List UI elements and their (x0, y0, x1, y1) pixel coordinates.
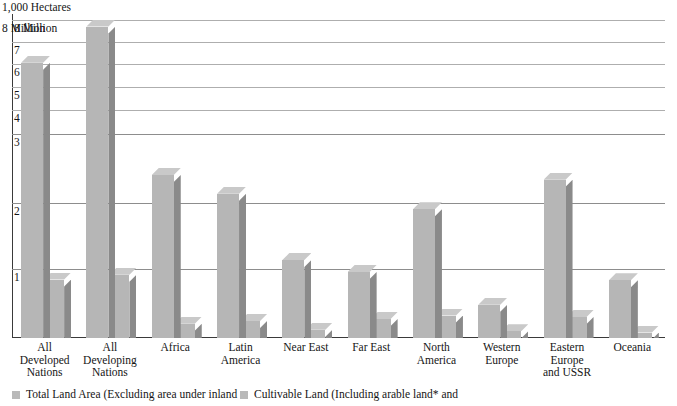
bar-side-face (260, 321, 267, 338)
bar-total-land-area (609, 280, 631, 338)
chart-root: 8 Million7654321 1,000 Hectares AllDevel… (0, 0, 677, 406)
bar-total-land-area (348, 272, 370, 338)
x-axis-label-line: Latin (208, 341, 273, 354)
legend-swatch (240, 391, 248, 399)
plot-area: 8 Million7654321 (12, 14, 665, 338)
bar-group (413, 14, 464, 338)
bar-total-land-area (544, 180, 566, 338)
bar-side-face (500, 305, 507, 338)
bar-total-land-area (282, 260, 304, 338)
chart-legend: Total Land Area (Excluding area under in… (12, 388, 665, 404)
bar-side-face (325, 330, 332, 338)
bar-front-face (413, 209, 435, 338)
bar-front-face (609, 280, 631, 338)
bar-group (217, 14, 268, 338)
bar-front-face (478, 305, 500, 338)
bar-side-face (587, 317, 594, 338)
bar-top-face (282, 253, 311, 260)
bar-side-face (129, 275, 136, 338)
x-axis-label-line: Europe (469, 354, 534, 367)
x-axis-label-7: WesternEurope (469, 341, 534, 366)
x-axis-label-2: Africa (143, 341, 208, 354)
bar-top-face (609, 273, 638, 280)
bar-total-land-area (21, 63, 43, 338)
x-axis-label-line: Europe (534, 354, 599, 367)
bar-series-container (12, 14, 665, 338)
bar-side-face (435, 209, 442, 338)
bar-front-face (282, 260, 304, 338)
x-axis-label-line: Nations (12, 366, 77, 379)
x-axis-label-line: North (404, 341, 469, 354)
bar-side-face (304, 260, 311, 338)
bar-front-face (544, 180, 566, 338)
bar-side-face (64, 280, 71, 338)
legend-label: Total Land Area (Excluding area under in… (26, 388, 237, 401)
bar-group (478, 14, 529, 338)
x-axis-label-line: Africa (143, 341, 208, 354)
x-axis-label-line: Oceania (600, 341, 665, 354)
bar-side-face (195, 324, 202, 338)
bar-side-face (108, 27, 115, 339)
bar-side-face (391, 319, 398, 338)
bar-side-face (370, 272, 377, 338)
x-axis-label-0: AllDevelopedNations (12, 341, 77, 379)
x-axis-label-5: Far East (339, 341, 404, 354)
bar-group (86, 14, 137, 338)
bar-front-face (348, 272, 370, 338)
bar-top-face (21, 56, 50, 63)
unit-label-million: 8 Million (2, 23, 45, 35)
bar-front-face (217, 194, 239, 338)
bar-total-land-area (413, 209, 435, 338)
bar-side-face (239, 194, 246, 338)
x-axis-label-line: America (208, 354, 273, 367)
unit-label-hectares: 1,000 Hectares (2, 2, 71, 14)
bar-group (282, 14, 333, 338)
x-axis-label-line: Developing (77, 354, 142, 367)
x-axis-label-line: Developed (12, 354, 77, 367)
bar-front-face (152, 175, 174, 338)
bar-front-face (86, 27, 108, 339)
x-axis-label-line: All (12, 341, 77, 354)
bar-top-face (413, 202, 442, 209)
x-axis-label-line: America (404, 354, 469, 367)
bar-side-face (631, 280, 638, 338)
bar-front-face (21, 63, 43, 338)
bar-total-land-area (478, 305, 500, 338)
x-axis-label-1: AllDevelopingNations (77, 341, 142, 379)
bar-top-face (478, 298, 507, 305)
bar-top-face (86, 20, 115, 27)
x-axis-label-line: Far East (339, 341, 404, 354)
x-axis-label-line: Near East (273, 341, 338, 354)
x-axis-label-6: NorthAmerica (404, 341, 469, 366)
x-axis-label-3: LatinAmerica (208, 341, 273, 366)
bar-side-face (456, 316, 463, 338)
bar-side-face (521, 331, 528, 338)
bar-total-land-area (86, 27, 108, 339)
bar-group (152, 14, 203, 338)
legend-item-1: Cultivable Land (Including arable land* … (240, 388, 458, 401)
x-axis-labels: AllDevelopedNationsAllDevelopingNationsA… (12, 341, 665, 387)
x-axis-label-line: Eastern (534, 341, 599, 354)
legend-swatch (12, 391, 20, 399)
bar-side-face (43, 63, 50, 338)
bar-top-face (348, 265, 377, 272)
bar-group (609, 14, 660, 338)
x-axis-label-line: Nations (77, 366, 142, 379)
bar-side-face (652, 333, 659, 338)
bar-group (544, 14, 595, 338)
bar-side-face (174, 175, 181, 338)
bar-group (21, 14, 72, 338)
bar-group (348, 14, 399, 338)
legend-label: Cultivable Land (Including arable land* … (254, 388, 458, 401)
x-axis-label-8: EasternEuropeand USSR (534, 341, 599, 379)
bar-side-face (566, 180, 573, 338)
legend-item-0: Total Land Area (Excluding area under in… (12, 388, 237, 401)
x-axis-label-line: All (77, 341, 142, 354)
x-axis-label-4: Near East (273, 341, 338, 354)
x-axis-label-9: Oceania (600, 341, 665, 354)
bar-total-land-area (152, 175, 174, 338)
x-axis-label-line: Western (469, 341, 534, 354)
bar-total-land-area (217, 194, 239, 338)
bar-top-face (217, 187, 246, 194)
bar-top-face (152, 168, 181, 175)
